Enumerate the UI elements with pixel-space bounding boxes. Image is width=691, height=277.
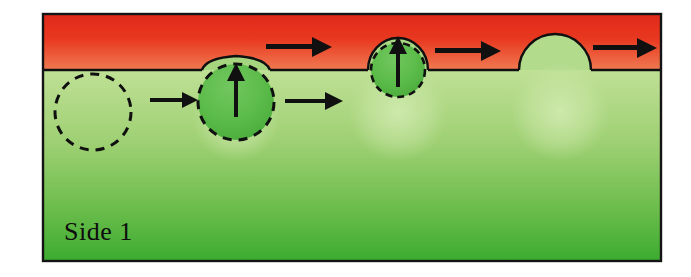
ghost-bubble-c [510, 62, 610, 162]
figure-root: Side 1 [0, 0, 691, 277]
bubble-diagram: Side 1 [0, 0, 691, 277]
side-1-label: Side 1 [64, 217, 133, 246]
